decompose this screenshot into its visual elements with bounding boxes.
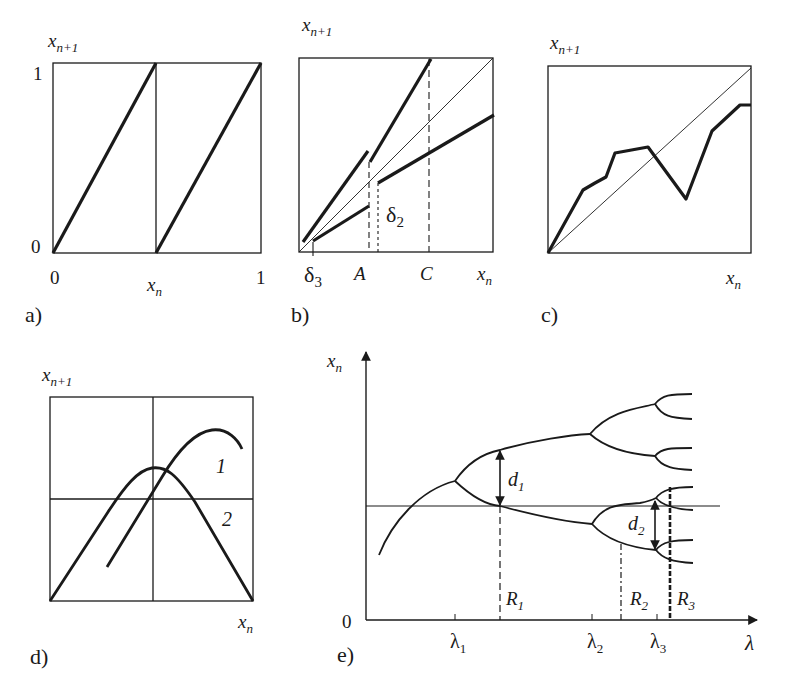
panel-c-diagonal [548, 68, 751, 253]
panel-a-x-tick-1: 1 [256, 267, 266, 288]
panel-e-caption: e) [337, 642, 354, 667]
panel-a-x-label: xn [146, 274, 162, 299]
panel-e-x-label: λ [744, 631, 754, 655]
panel-e-marker-R1: R1 [505, 588, 524, 613]
panel-b-y-label: xn+1 [301, 14, 332, 39]
panel-d-caption: d) [30, 644, 48, 669]
panel-e-marker-R2: R2 [629, 588, 649, 613]
panel-e-y-label: xn [326, 350, 342, 375]
panel-b-upper-branch-2 [370, 59, 431, 162]
panel-a-y-tick-1: 1 [33, 63, 43, 84]
panel-e-tick-label-lambda3: λ3 [650, 630, 666, 656]
panel-a-caption: a) [25, 302, 42, 327]
panel-c-caption: c) [541, 302, 558, 327]
panel-b-marker-A: A [352, 263, 366, 284]
panel-b-marker-C: C [420, 263, 433, 284]
panel-a-y-tick-0: 0 [31, 236, 41, 257]
panel-d: 1 2 xn+1 xn d) [30, 364, 253, 669]
panel-e-origin-label: 0 [342, 611, 352, 632]
panel-a-branch-2 [156, 63, 261, 253]
panel-e-marker-R3: R3 [676, 588, 696, 613]
panel-b-x-label: xn [476, 263, 492, 288]
panel-b-caption: b) [291, 302, 309, 327]
figure-canvas: xn+1 1 0 0 1 xn a) xn+1 δ2 δ3 A C xn b) … [0, 0, 788, 693]
panel-e-tick-label-lambda1: λ1 [450, 630, 466, 656]
panel-a-y-label: xn+1 [47, 30, 78, 55]
panel-a-branch-1 [53, 63, 156, 253]
panel-d-curve-label-2: 2 [222, 508, 232, 530]
panel-e-distance-d1: d1 [508, 468, 525, 494]
panel-c: xn+1 xn c) [541, 32, 751, 327]
panel-e-bifurcation-tree [379, 394, 693, 563]
panel-b-lower-branch-1 [313, 206, 369, 241]
panel-e-tick-label-lambda2: λ2 [587, 630, 603, 656]
panel-a-x-tick-0: 0 [50, 267, 60, 288]
panel-b-lower-branch-2 [378, 115, 494, 183]
panel-d-x-label: xn [237, 611, 253, 636]
panel-b: xn+1 δ2 δ3 A C xn b) [291, 14, 494, 327]
panel-c-y-label: xn+1 [549, 32, 580, 57]
panel-e: xn 0 λ λ1 λ2 λ3 R1 R2 R3 d1 d2 e) [326, 350, 757, 667]
panel-b-annotation-delta2: δ2 [386, 202, 404, 230]
panel-c-map-curve [548, 105, 751, 253]
panel-a: xn+1 1 0 0 1 xn a) [25, 30, 266, 327]
panel-d-curve-label-1: 1 [216, 455, 226, 477]
panel-e-distance-d2: d2 [628, 512, 645, 538]
panel-c-x-label: xn [725, 267, 741, 292]
panel-d-curve-2 [50, 468, 253, 601]
panel-b-marker-delta3: δ3 [304, 262, 322, 290]
panel-d-y-label: xn+1 [41, 364, 72, 389]
panel-a-frame [53, 63, 261, 253]
